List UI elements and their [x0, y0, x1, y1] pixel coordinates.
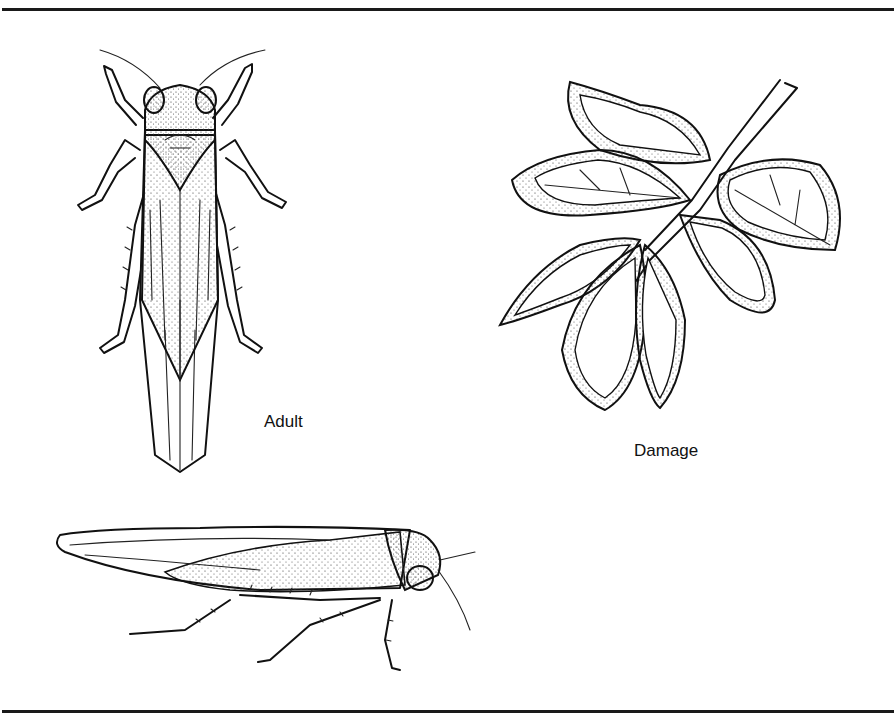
adult-lateral-illustration: [0, 0, 894, 722]
bottom-border-rule: [2, 710, 894, 713]
